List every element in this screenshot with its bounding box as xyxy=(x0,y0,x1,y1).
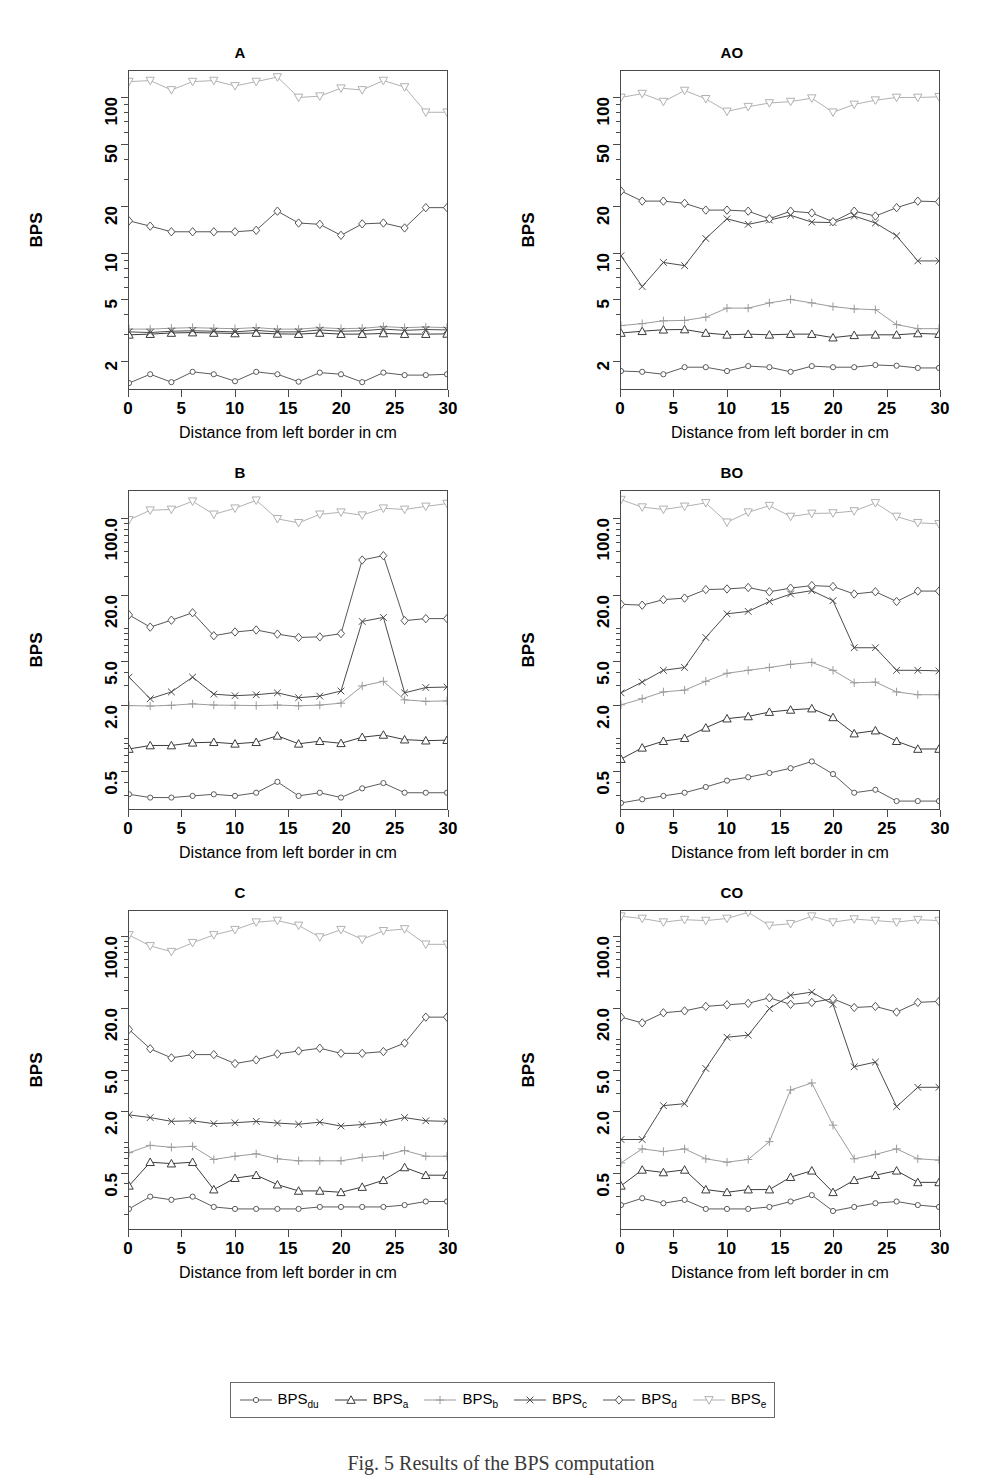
x-tick-mark xyxy=(727,390,728,397)
legend-item-bps-a[interactable]: BPSa xyxy=(334,1390,409,1410)
marker-triangle-down xyxy=(358,512,366,520)
x-tick-mark xyxy=(780,1230,781,1237)
y-tick-mark xyxy=(121,253,128,254)
marker-circle xyxy=(703,1206,708,1211)
marker-circle xyxy=(809,759,814,764)
y-axis-A: 25102050100 xyxy=(20,70,128,390)
marker-triangle-up xyxy=(892,737,900,745)
series-line-BPS_c xyxy=(621,591,939,693)
marker-triangle-up xyxy=(379,731,387,739)
figure-caption: Fig. 5 Results of the BPS computation xyxy=(0,1452,1002,1475)
y-tick-label: 100.0 xyxy=(594,936,614,979)
marker-triangle-up xyxy=(680,734,688,742)
y-tick-mark xyxy=(613,705,620,706)
x-tick-mark xyxy=(780,810,781,817)
legend-item-bps-d[interactable]: BPSd xyxy=(602,1390,677,1410)
marker-circle xyxy=(360,786,365,791)
x-tick-label: 10 xyxy=(717,1239,736,1259)
marker-triangle-down xyxy=(892,919,900,927)
marker-diamond xyxy=(316,220,323,228)
marker-circle xyxy=(894,1199,899,1204)
panel-title-CO: CO xyxy=(512,884,952,901)
marker-plus xyxy=(829,666,837,674)
x-tick-mark xyxy=(235,390,236,397)
x-tick-label: 15 xyxy=(771,1239,790,1259)
marker-triangle-down xyxy=(765,922,773,930)
marker-circle xyxy=(296,379,301,384)
marker-triangle-up xyxy=(702,724,710,732)
marker-circle xyxy=(317,370,322,375)
legend-item-bps-e[interactable]: BPSe xyxy=(692,1390,767,1410)
marker-circle xyxy=(873,1201,878,1206)
y-tick-mark xyxy=(121,936,128,937)
legend-item-bps-c[interactable]: BPSc xyxy=(513,1390,587,1410)
marker-plus xyxy=(188,1142,196,1150)
marker-plus xyxy=(744,304,752,312)
marker-plus xyxy=(167,1143,175,1151)
x-tick-mark xyxy=(940,390,941,397)
legend-item-bps-b[interactable]: BPSb xyxy=(423,1390,498,1410)
marker-diamond xyxy=(443,1013,447,1021)
marker-diamond xyxy=(723,206,730,214)
marker-circle xyxy=(275,1206,280,1211)
x-tick-mark xyxy=(833,1230,834,1237)
marker-plus xyxy=(210,701,218,709)
marker-plus xyxy=(892,1145,900,1153)
marker-triangle-down xyxy=(358,87,366,95)
marker-diamond xyxy=(872,588,879,596)
marker-cross xyxy=(621,689,624,696)
x-tick-mark xyxy=(673,810,674,817)
legend-item-bps-du[interactable]: BPSdu xyxy=(239,1390,319,1410)
marker-triangle-down xyxy=(935,917,939,925)
marker-circle xyxy=(338,795,343,800)
marker-circle xyxy=(621,800,624,805)
marker-circle xyxy=(788,766,793,771)
y-tick-label: 0.5 xyxy=(594,1173,614,1197)
marker-triangle-down xyxy=(829,919,837,927)
marker-diamond xyxy=(380,1047,387,1055)
panel-title-A: A xyxy=(20,44,460,61)
marker-circle xyxy=(444,790,447,795)
marker-diamond xyxy=(851,590,858,598)
marker-plus xyxy=(914,1155,922,1163)
marker-circle xyxy=(746,364,751,369)
marker-plus xyxy=(786,660,794,668)
marker-diamond xyxy=(168,616,175,624)
marker-plus xyxy=(638,695,646,703)
x-tick-label: 25 xyxy=(385,399,404,419)
marker-triangle-down xyxy=(621,94,625,102)
marker-circle xyxy=(682,1197,687,1202)
y-tick-label: 0.5 xyxy=(102,771,122,795)
marker-circle xyxy=(211,372,216,377)
marker-plus xyxy=(231,701,239,709)
marker-triangle-up xyxy=(400,1163,408,1171)
marker-triangle-up xyxy=(829,713,837,721)
marker-triangle-down xyxy=(659,506,667,514)
marker-circle xyxy=(338,1204,343,1209)
marker-circle xyxy=(640,797,645,802)
x-tick-mark xyxy=(288,1230,289,1237)
marker-plus xyxy=(188,700,196,708)
marker-diamond xyxy=(914,998,921,1006)
marker-circle xyxy=(148,1194,153,1199)
series-line-BPS_a xyxy=(129,333,447,335)
marker-circle xyxy=(169,380,174,385)
x-tick-mark xyxy=(887,810,888,817)
marker-triangle-down xyxy=(723,519,731,527)
series-line-BPS_du xyxy=(621,365,939,374)
marker-circle xyxy=(190,1194,195,1199)
legend-label: BPSa xyxy=(373,1390,409,1410)
marker-triangle-down xyxy=(850,101,858,109)
x-tick-label: 15 xyxy=(279,1239,298,1259)
marker-diamond xyxy=(231,1059,238,1067)
series-line-BPS_d xyxy=(129,556,447,638)
marker-diamond xyxy=(681,199,688,207)
marker-triangle-down xyxy=(167,87,175,95)
series-line-BPS_b xyxy=(129,327,447,329)
x-tick-mark xyxy=(395,810,396,817)
marker-cross xyxy=(639,679,646,686)
marker-diamond xyxy=(129,611,133,619)
series-line-BPS_a xyxy=(621,330,939,338)
legend-key-cross-icon xyxy=(513,1392,547,1408)
series-line-BPS_c xyxy=(129,1115,447,1126)
